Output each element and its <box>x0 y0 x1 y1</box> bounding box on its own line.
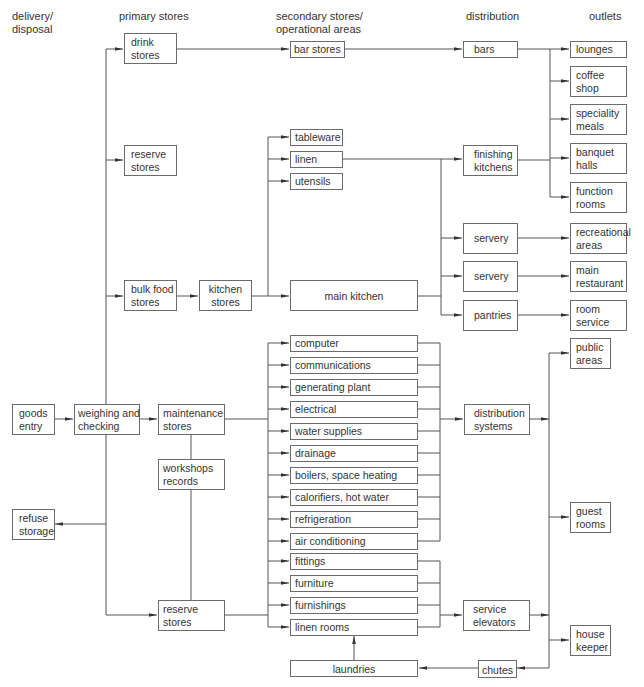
node-lounges: lounges <box>570 41 627 58</box>
node-banquet-halls: banquet halls <box>570 143 627 174</box>
node-furnishings: furnishings <box>290 597 418 614</box>
node-service-communications: communications <box>290 357 418 374</box>
node-linen-rooms: linen rooms <box>290 619 418 636</box>
node-service-boilers: boilers, space heating <box>290 467 418 484</box>
node-bars: bars <box>463 41 518 58</box>
node-reserve-stores-bottom: reserve stores <box>158 600 225 631</box>
node-house-keeper: house keeper <box>570 625 611 656</box>
node-service-air-conditioning: air conditioning <box>290 533 418 550</box>
node-utensils: utensils <box>290 173 343 190</box>
node-drink-stores: drink stores <box>124 33 177 64</box>
node-service-calorifiers: calorifiers, hot water <box>290 489 418 506</box>
node-chutes: chutes <box>478 660 517 678</box>
node-reserve-stores-top: reserve stores <box>124 145 177 176</box>
node-finishing-kitchens: finishing kitchens <box>463 145 518 176</box>
node-service-generating-plant: generating plant <box>290 379 418 396</box>
node-furniture: furniture <box>290 575 418 592</box>
node-maintenance-stores: maintenance stores <box>158 404 225 435</box>
node-service-water-supplies: water supplies <box>290 423 418 440</box>
node-kitchen-stores: kitchen stores <box>199 280 252 311</box>
node-pantries: pantries <box>463 300 518 331</box>
node-tableware: tableware <box>290 129 343 146</box>
node-bulk-food-stores: bulk food stores <box>124 280 177 311</box>
node-main-kitchen: main kitchen <box>290 280 418 311</box>
node-service-drainage: drainage <box>290 445 418 462</box>
node-guest-rooms: guest rooms <box>570 502 611 533</box>
node-service-elevators: service elevators <box>463 600 530 631</box>
node-coffee-shop: coffee shop <box>570 66 627 97</box>
node-refuse-storage: refuse storage <box>12 509 55 540</box>
node-weighing-and-checking: weighing and checking <box>74 404 140 435</box>
node-service-computer: computer <box>290 335 418 352</box>
node-servery-1: servery <box>463 223 518 254</box>
node-recreational-areas: recreational areas <box>570 223 627 254</box>
node-goods-entry: goods entry <box>12 404 55 435</box>
node-public-areas: public areas <box>570 338 611 369</box>
node-function-rooms: function rooms <box>570 182 627 213</box>
node-service-electrical: electrical <box>290 401 418 418</box>
node-room-service: room service <box>570 300 627 331</box>
node-laundries: laundries <box>290 660 418 677</box>
node-distribution-systems: distribution systems <box>464 404 530 435</box>
node-service-refrigeration: refrigeration <box>290 511 418 528</box>
node-speciality-meals: speciality meals <box>570 104 627 135</box>
node-linen: linen <box>290 151 343 168</box>
node-servery-2: servery <box>463 261 518 292</box>
node-main-restaurant: main restaurant <box>570 261 627 292</box>
node-workshops-records: workshops records <box>158 459 225 490</box>
node-bar-stores: bar stores <box>290 41 345 58</box>
node-fittings: fittings <box>290 553 418 570</box>
